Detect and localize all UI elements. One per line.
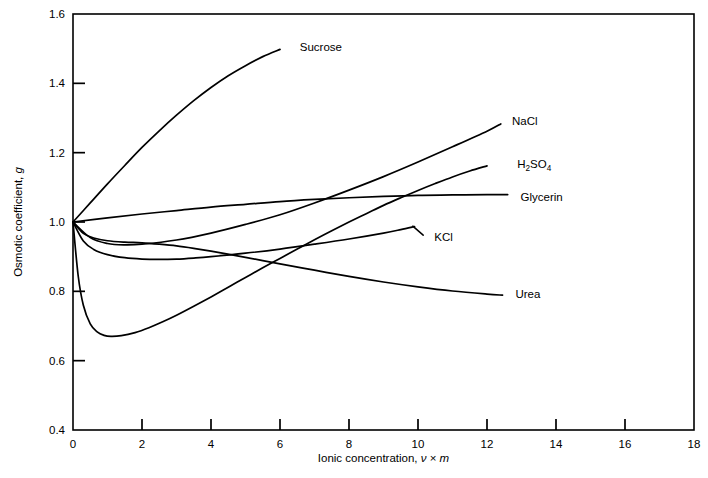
series-label-sucrose: Sucrose	[300, 41, 342, 53]
x-tick-label-10: 10	[412, 438, 425, 450]
x-axis-ticks	[142, 419, 625, 430]
data-curves	[73, 49, 508, 336]
series-label-nacl: NaCl	[512, 115, 538, 127]
x-tick-label-8: 8	[346, 438, 352, 450]
y-tick-label-1.2: 1.2	[49, 147, 65, 159]
series-label-urea: Urea	[515, 288, 541, 300]
y-axis-tick-labels: 0.40.60.81.01.21.41.6	[49, 8, 66, 436]
y-tick-label-1.6: 1.6	[49, 8, 65, 20]
x-tick-label-2: 2	[139, 438, 145, 450]
chart-page: 024681012141618 0.40.60.81.01.21.41.6 Su…	[0, 0, 708, 478]
x-tick-label-6: 6	[277, 438, 283, 450]
y-tick-label-1.4: 1.4	[49, 77, 66, 89]
y-axis-title: Osmotic coefficient, g	[12, 167, 24, 277]
series-label-kcl: KCl	[434, 231, 453, 243]
series-label-h2so4: H2SO4	[517, 158, 552, 173]
leader-kcl	[413, 226, 423, 235]
x-axis-title: Ionic concentration, ν × m	[318, 452, 450, 464]
y-tick-label-0.4: 0.4	[49, 424, 66, 436]
y-tick-label-1: 1.0	[49, 216, 65, 228]
osmotic-coefficient-chart: 024681012141618 0.40.60.81.01.21.41.6 Su…	[0, 0, 708, 478]
x-tick-label-18: 18	[688, 438, 701, 450]
x-tick-label-4: 4	[208, 438, 215, 450]
label-leader-lines	[413, 226, 423, 235]
y-tick-label-0.6: 0.6	[49, 355, 65, 367]
series-label-glycerin: Glycerin	[521, 191, 563, 203]
x-axis-tick-labels: 024681012141618	[70, 438, 701, 450]
x-tick-label-14: 14	[550, 438, 563, 450]
y-tick-label-0.8: 0.8	[49, 285, 65, 297]
curve-kcl	[73, 222, 415, 259]
series-labels: SucroseNaClH2SO4GlycerinKClUrea	[300, 41, 563, 300]
curve-h2so4	[73, 166, 487, 337]
x-tick-label-16: 16	[619, 438, 632, 450]
plot-frame	[73, 14, 694, 430]
curve-glycerin	[73, 195, 508, 222]
curve-nacl	[73, 124, 501, 245]
x-tick-label-0: 0	[70, 438, 76, 450]
x-tick-label-12: 12	[481, 438, 494, 450]
curve-sucrose	[73, 49, 280, 222]
